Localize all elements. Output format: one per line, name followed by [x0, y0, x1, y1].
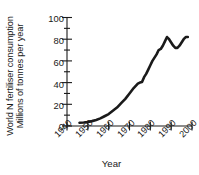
x-axis-title-text: Year: [102, 158, 121, 169]
x-axis-title: Year: [0, 158, 199, 169]
chart-container: World N fertiliser consumption Millions …: [0, 0, 199, 175]
data-series-line: [80, 37, 188, 123]
plot-area: [0, 0, 199, 175]
